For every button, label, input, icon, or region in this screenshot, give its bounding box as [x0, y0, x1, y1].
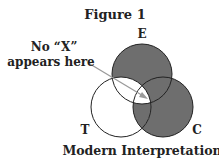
annotation-line-1: No “X” [31, 40, 78, 54]
figure-caption: Modern Interpretation [62, 143, 219, 158]
label-e: E [137, 27, 146, 41]
venn-figure: Figure 1 No “X” appears here E T C Moder… [0, 0, 219, 163]
annotation-line-2: appears here [7, 55, 95, 69]
figure-title: Figure 1 [84, 7, 145, 22]
shaded-regions [112, 44, 193, 137]
label-c: C [192, 123, 202, 137]
label-t: T [81, 123, 90, 137]
